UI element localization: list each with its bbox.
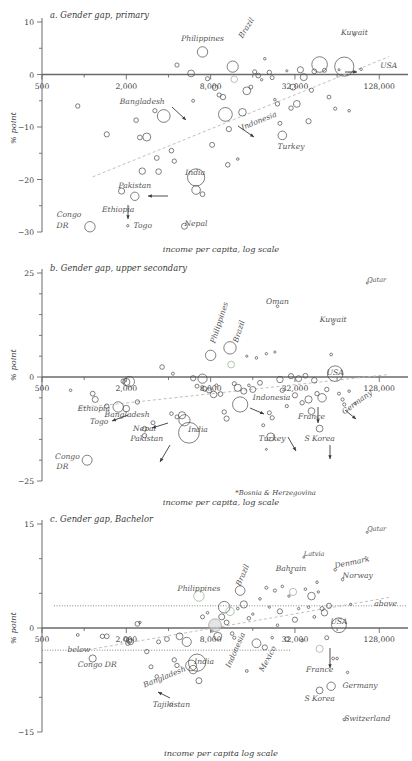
country-label: India <box>193 657 214 666</box>
data-bubble <box>346 671 348 673</box>
country-label: USA <box>380 61 398 70</box>
panel-title: a. Gender gap, primary <box>50 10 149 20</box>
country-label: Kuwait <box>319 315 348 324</box>
data-bubble <box>255 357 258 360</box>
country-label: Indonesia <box>239 109 279 132</box>
data-bubble <box>348 109 351 112</box>
country-label: Mexico <box>257 644 279 674</box>
data-bubble <box>253 70 257 74</box>
country-label: Turkey <box>259 434 287 443</box>
x-tick-label: 128,000 <box>364 82 396 91</box>
data-bubble <box>198 374 207 383</box>
data-bubble <box>318 394 326 402</box>
data-bubble <box>252 613 254 615</box>
country-label: above <box>374 599 397 608</box>
data-bubble <box>258 380 263 385</box>
data-bubble <box>293 101 300 108</box>
x-axis-label: income per capita, log scale <box>163 497 280 507</box>
data-bubble <box>104 132 109 137</box>
y-tick-label: 0 <box>29 624 34 633</box>
data-bubble <box>236 158 239 161</box>
data-bubble <box>278 131 287 140</box>
country-label: Congo <box>57 210 82 219</box>
data-bubble <box>206 611 209 614</box>
data-bubble <box>300 401 304 405</box>
data-bubble <box>316 645 323 652</box>
data-bubble <box>330 353 333 356</box>
data-bubble <box>316 581 319 584</box>
country-label: Oman <box>266 297 289 306</box>
data-bubble <box>308 592 316 600</box>
data-bubble <box>134 118 139 123</box>
data-bubble <box>195 384 199 388</box>
chart-a: a. Gender gap, primary100−10−20−30% poin… <box>0 0 412 255</box>
country-label: Denmark <box>333 554 371 570</box>
data-bubble <box>131 192 139 200</box>
y-tick-label: −15 <box>18 728 34 737</box>
x-tick-label: 500 <box>35 384 50 393</box>
data-bubble <box>274 98 277 101</box>
x-tick-label: 2,000 <box>115 82 137 91</box>
data-bubble <box>338 69 340 71</box>
country-label: Philippines <box>208 301 230 345</box>
country-label: Bangladesh <box>104 410 150 419</box>
panel-a-gender-gap-primary: a. Gender gap, primary100−10−20−30% poin… <box>0 0 412 255</box>
data-bubble <box>127 225 129 227</box>
data-bubble <box>270 76 274 80</box>
data-bubble <box>334 107 337 110</box>
data-bubble <box>307 606 310 609</box>
data-bubble <box>230 632 234 636</box>
data-bubble <box>76 104 80 108</box>
country-label: DR <box>56 462 69 471</box>
data-bubble <box>153 109 157 113</box>
data-bubble <box>100 634 104 638</box>
leader-pakistan-head <box>148 194 152 197</box>
data-bubble <box>277 609 282 614</box>
y-tick-label: −30 <box>18 228 34 237</box>
country-label: Philippines <box>177 584 221 593</box>
data-bubble <box>224 342 236 354</box>
data-bubble <box>278 121 282 125</box>
data-bubble <box>297 607 299 609</box>
x-axis-label: income per capita log scale <box>164 748 278 758</box>
data-bubble <box>316 687 323 694</box>
data-bubble <box>219 614 225 620</box>
data-bubble <box>249 85 253 89</box>
data-bubble <box>281 585 284 588</box>
country-label: USA <box>330 617 348 626</box>
data-bubble <box>226 127 231 132</box>
country-label: Germany <box>343 681 379 690</box>
x-tick-label: 8,000 <box>200 82 222 91</box>
data-bubble <box>245 670 248 673</box>
data-bubble <box>309 88 313 92</box>
data-bubble <box>292 393 297 398</box>
country-label: Congo <box>55 452 80 461</box>
data-bubble <box>247 616 251 620</box>
country-label: Kuwait <box>340 28 369 37</box>
country-label: India <box>187 425 208 434</box>
data-bubble <box>189 665 197 673</box>
data-bubble <box>316 425 323 432</box>
country-label: Qatar <box>367 276 387 284</box>
country-label: Nepal <box>183 219 208 228</box>
data-bubble <box>289 106 293 110</box>
data-bubble <box>196 678 202 684</box>
data-bubble <box>306 119 311 124</box>
country-label: Latvia <box>303 550 325 558</box>
country-label: DR <box>56 221 69 230</box>
data-bubble <box>172 658 176 662</box>
data-bubble <box>332 657 335 660</box>
x-tick-label: 32,000 <box>282 635 309 644</box>
data-bubble <box>327 95 331 99</box>
data-bubble <box>341 398 344 401</box>
data-bubble <box>154 156 159 161</box>
data-bubble <box>264 57 267 60</box>
data-bubble <box>304 588 307 591</box>
country-label: Philippines <box>180 34 224 43</box>
data-bubble <box>260 79 262 81</box>
country-label: S Korea <box>304 694 335 703</box>
data-bubble <box>205 350 215 360</box>
country-label: below <box>67 645 90 654</box>
y-tick-label: −10 <box>18 123 34 132</box>
x-tick-label: 128,000 <box>364 635 396 644</box>
